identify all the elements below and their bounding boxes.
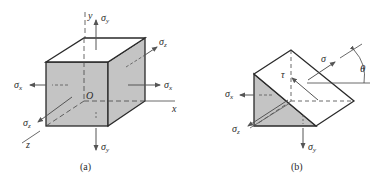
sigma-z-front-label: σz [23,117,31,130]
z-axis-line [22,131,40,143]
cube-front-face [46,62,108,126]
theta-label: θ [360,62,366,74]
sigma-y-bottom-label: σy [101,141,110,154]
sigma-x-right-label: σx [164,79,173,92]
tau-label: τ [281,69,285,80]
figure-a-cube: y σy σz σx σx O x σz z σy (a) [14,10,177,173]
origin-label: O [86,90,93,101]
stress-element-diagram: y σy σz σx σx O x σz z σy (a) [0,0,385,178]
figure-b-caption: (b) [291,161,303,173]
sigma-normal-label: σ [321,53,327,64]
z-axis-label: z [25,139,30,150]
x-axis-label: x [171,103,177,114]
sigma-y-top-label: σy [101,12,110,25]
sigma-z-label: σz [232,123,240,136]
sigma-z-back-label: σz [159,36,167,49]
sigma-y-label: σy [308,141,317,154]
sigma-x-label: σx [225,88,234,101]
sigma-z-back-arrow [145,47,157,55]
figure-b-wedge: σ τ θ σx σz σy (b) [225,44,370,173]
figure-a-caption: (a) [80,161,91,173]
y-axis-label: y [87,10,93,21]
sigma-x-left-label: σx [14,79,23,92]
